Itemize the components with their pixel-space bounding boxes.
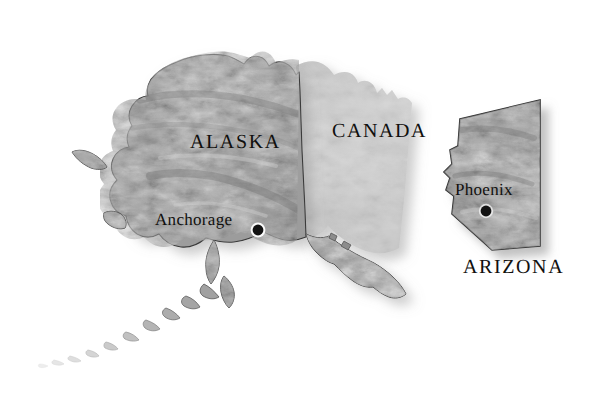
aleutian-segment-2 (182, 296, 200, 309)
region-label-alaska: ALASKA (190, 131, 281, 154)
region-arizona (440, 95, 550, 255)
kodiak-texture (221, 276, 235, 308)
city-label-phoenix: Phoenix (455, 180, 513, 200)
canada-texture (296, 61, 412, 253)
aleutian-segment-5 (123, 332, 139, 341)
arizona-terrain-group (440, 95, 550, 255)
aleutian-segment-4 (143, 320, 160, 331)
aleutian-segment-10 (38, 364, 48, 368)
aleutian-segment-9 (52, 360, 64, 365)
region-label-canada: CANADA (332, 120, 427, 143)
city-label-anchorage: Anchorage (155, 210, 232, 230)
aleutian-segment-7 (86, 350, 99, 357)
aleutian-islands (38, 284, 219, 368)
aleutian-segment-3 (162, 308, 180, 320)
map-canvas (0, 0, 593, 400)
region-label-arizona: ARIZONA (463, 256, 564, 279)
phoenix-marker[interactable] (481, 206, 492, 217)
map-figure: ALASKA CANADA ARIZONA Anchorage Phoenix (0, 0, 593, 400)
aleutian-segment-1 (200, 284, 219, 299)
anchorage-marker[interactable] (253, 225, 264, 236)
region-canada (296, 61, 412, 253)
aleutian-segment-8 (68, 356, 81, 362)
aleutian-segment-6 (104, 342, 118, 350)
